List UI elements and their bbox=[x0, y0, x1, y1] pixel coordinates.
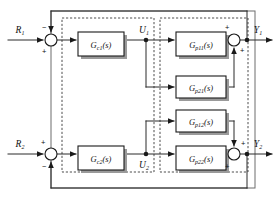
output-y1-label: Y1 bbox=[254, 25, 262, 36]
sum-junction-r1-sign-plus: + bbox=[42, 47, 47, 56]
sum-junction-y2-sign-plus-bottom: + bbox=[225, 162, 230, 171]
sum-junction-r1-sign-minus: − bbox=[42, 23, 47, 32]
sum-junction-r1: − + bbox=[42, 23, 57, 56]
tap-u2 bbox=[144, 152, 149, 157]
block-gp12: Gp12(s) bbox=[176, 110, 229, 135]
signal-u1-label: U1 bbox=[139, 25, 149, 36]
tap-y1 bbox=[245, 38, 250, 43]
input-r1-label: R1 bbox=[15, 25, 25, 36]
block-gc1: Gc1(s) bbox=[78, 32, 127, 59]
sum-junction-r2-sign-plus: + bbox=[41, 138, 46, 147]
block-diagram-canvas: Gc1(s) Gc2(s) Gp11(s) Gp21(s) bbox=[0, 0, 279, 204]
tap-u1 bbox=[144, 38, 149, 43]
sum-junction-y2-sign-plus-top: + bbox=[241, 139, 246, 148]
sum-junction-y2: + + bbox=[225, 139, 246, 171]
block-gp22: Gp22(s) bbox=[176, 146, 229, 173]
sum-junction-y1-sign-plus-bottom: + bbox=[240, 46, 245, 55]
tap-y2 bbox=[245, 152, 250, 157]
block-diagram-svg: Gc1(s) Gc2(s) Gp11(s) Gp21(s) bbox=[0, 0, 279, 204]
block-gp21: Gp21(s) bbox=[176, 76, 229, 101]
signal-u2-label: U2 bbox=[139, 160, 149, 171]
block-gp11: Gp11(s) bbox=[176, 32, 229, 59]
output-y2-label: Y2 bbox=[254, 139, 262, 150]
input-r2-label: R2 bbox=[15, 139, 25, 150]
block-gc2: Gc2(s) bbox=[78, 146, 127, 173]
sum-junction-r2-sign-minus: − bbox=[42, 162, 47, 171]
sum-junction-y1-sign-plus-top: + bbox=[225, 23, 230, 32]
